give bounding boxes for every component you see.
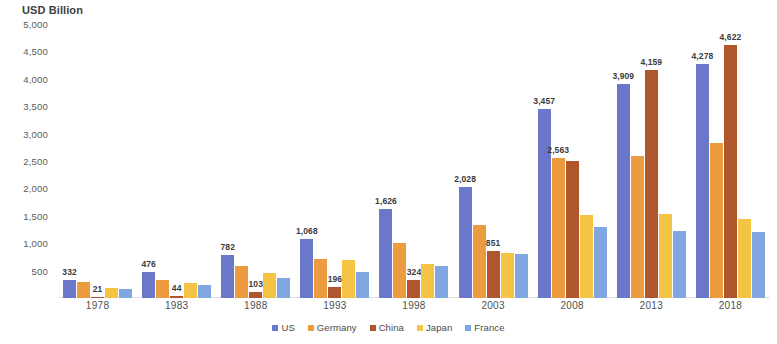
bar-rect: [342, 260, 355, 298]
bar-france-1988[interactable]: [277, 24, 290, 298]
bar-china-1998[interactable]: 324: [407, 24, 420, 298]
bar-rect: [91, 297, 104, 298]
bar-value-label: 44: [172, 283, 182, 293]
bar-japan-2008[interactable]: [580, 24, 593, 298]
x-axis-tick-label: 1988: [244, 300, 267, 316]
chart-container: USD Billion 5,0004,5004,0003,5003,0002,5…: [0, 0, 777, 344]
bar-rect: [277, 278, 290, 298]
bar-value-label: 196: [328, 274, 342, 284]
bar-rect: [435, 266, 448, 298]
bar-japan-1993[interactable]: [342, 24, 355, 298]
bar-rect: [105, 288, 118, 298]
bar-france-2003[interactable]: [515, 24, 528, 298]
bar-us-2008[interactable]: 3,457: [538, 24, 551, 298]
legend-swatch-icon: [465, 325, 471, 331]
bar-rect: [738, 219, 751, 298]
y-axis-tick-label: 2,000: [23, 183, 48, 194]
bar-rect: [263, 273, 276, 298]
bar-us-1988[interactable]: 782: [221, 24, 234, 298]
bar-rect: [221, 255, 234, 298]
bar-china-1978[interactable]: 21: [91, 24, 104, 298]
bar-japan-1978[interactable]: [105, 24, 118, 298]
bar-germany-1978[interactable]: [77, 24, 90, 298]
x-axis-tick-label: 2003: [481, 300, 504, 316]
bar-japan-2003[interactable]: [501, 24, 514, 298]
bar-rect: [487, 251, 500, 298]
bar-china-2018[interactable]: 4,622: [724, 24, 737, 298]
bar-value-label: 476: [141, 259, 155, 269]
bar-france-1983[interactable]: [198, 24, 211, 298]
bar-rect: [617, 84, 630, 298]
bar-value-label: 332: [62, 267, 76, 277]
bar-rect: [673, 231, 686, 298]
bar-value-label: 851: [486, 238, 500, 248]
bar-germany-2008[interactable]: 2,563: [552, 24, 565, 298]
bar-group: 782103: [221, 24, 290, 298]
bar-us-2013[interactable]: 3,909: [617, 24, 630, 298]
bar-rect: [710, 143, 723, 298]
bar-china-1988[interactable]: 103: [249, 24, 262, 298]
bar-value-label: 103: [249, 279, 263, 289]
bar-rect: [142, 272, 155, 298]
legend-item-germany[interactable]: Germany: [308, 322, 357, 333]
y-axis-tick-label: 4,500: [23, 46, 48, 57]
y-axis-tick-label: 5,000: [23, 19, 48, 30]
bar-group: 1,626324: [379, 24, 448, 298]
bar-rect: [119, 289, 132, 298]
bar-germany-1998[interactable]: [393, 24, 406, 298]
bar-group: 3,4572,563: [538, 24, 607, 298]
x-axis-tick-label: 1993: [323, 300, 346, 316]
bar-group: 4,2784,622: [696, 24, 765, 298]
bar-china-2003[interactable]: 851: [487, 24, 500, 298]
bar-germany-1983[interactable]: [156, 24, 169, 298]
bar-france-2013[interactable]: [673, 24, 686, 298]
bar-france-1998[interactable]: [435, 24, 448, 298]
bar-germany-2003[interactable]: [473, 24, 486, 298]
bar-group: 2,028851: [459, 24, 528, 298]
bar-us-1998[interactable]: 1,626: [379, 24, 392, 298]
bar-rect: [538, 109, 551, 298]
bar-germany-2018[interactable]: [710, 24, 723, 298]
legend-item-china[interactable]: China: [370, 322, 404, 333]
legend-item-japan[interactable]: Japan: [417, 322, 452, 333]
bar-china-2013[interactable]: 4,159: [645, 24, 658, 298]
bar-rect: [645, 70, 658, 298]
bar-us-2018[interactable]: 4,278: [696, 24, 709, 298]
bar-japan-1988[interactable]: [263, 24, 276, 298]
bar-rect: [314, 259, 327, 298]
bar-group: 47644: [142, 24, 211, 298]
bar-japan-1998[interactable]: [421, 24, 434, 298]
bar-rect: [501, 253, 514, 298]
bar-rect: [552, 158, 565, 298]
x-axis-tick-label: 1978: [86, 300, 109, 316]
bar-rect: [580, 215, 593, 298]
bar-china-1983[interactable]: 44: [170, 24, 183, 298]
bar-rect: [459, 187, 472, 298]
bar-france-1978[interactable]: [119, 24, 132, 298]
bar-japan-1983[interactable]: [184, 24, 197, 298]
bar-rect: [566, 161, 579, 298]
bar-france-1993[interactable]: [356, 24, 369, 298]
bar-us-1983[interactable]: 476: [142, 24, 155, 298]
legend-item-france[interactable]: France: [465, 322, 504, 333]
bar-rect: [515, 254, 528, 298]
bar-japan-2013[interactable]: [659, 24, 672, 298]
bar-us-1993[interactable]: 1,068: [300, 24, 313, 298]
bar-japan-2018[interactable]: [738, 24, 751, 298]
y-axis-tick-label: 3,500: [23, 101, 48, 112]
bar-germany-1993[interactable]: [314, 24, 327, 298]
legend-item-us[interactable]: US: [272, 322, 294, 333]
bar-us-1978[interactable]: 332: [63, 24, 76, 298]
bar-value-label: 782: [221, 242, 235, 252]
bar-china-2008[interactable]: [566, 24, 579, 298]
bar-germany-1988[interactable]: [235, 24, 248, 298]
bar-rect: [328, 287, 341, 298]
bar-china-1993[interactable]: 196: [328, 24, 341, 298]
legend-swatch-icon: [272, 325, 278, 331]
bar-us-2003[interactable]: 2,028: [459, 24, 472, 298]
bar-france-2018[interactable]: [752, 24, 765, 298]
bar-rect: [379, 209, 392, 298]
x-axis: 197819831988199319982003200820132018: [58, 300, 770, 316]
bar-groups: 33221476447821031,0681961,6263242,028851…: [58, 24, 770, 298]
bar-france-2008[interactable]: [594, 24, 607, 298]
